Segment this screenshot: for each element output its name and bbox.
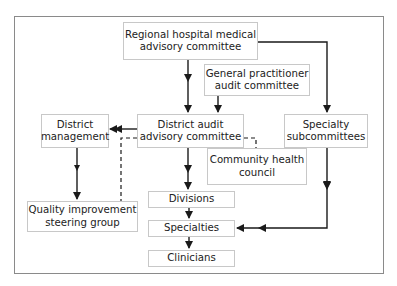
node-clinicians: Clinicians [148, 250, 235, 267]
node-gp-audit-committee: General practitioner audit committee [204, 64, 310, 96]
node-district-audit-committee: District audit advisory committee [137, 114, 244, 148]
node-label: Specialties [164, 222, 219, 235]
edge-dashed-quality [121, 138, 137, 201]
arrowhead-district-audit-mid [184, 74, 192, 82]
node-label: Clinicians [167, 252, 216, 265]
node-label: Community health council [208, 154, 306, 179]
arrowhead-management [114, 125, 122, 133]
node-specialty-subcommittees: Specialty subcommittees [284, 114, 368, 148]
arrowhead-quality-mid [74, 165, 80, 171]
arrowhead-divisions-mid [184, 165, 192, 173]
node-label: General practitioner audit committee [205, 68, 309, 93]
node-specialties: Specialties [148, 220, 235, 237]
node-label: Regional hospital medical advisory commi… [124, 29, 257, 54]
node-label: Specialty subcommittees [285, 119, 367, 144]
node-label: District audit advisory committee [138, 119, 243, 144]
arrowhead-specialty-vertical [323, 182, 331, 190]
node-divisions: Divisions [148, 191, 235, 208]
edge-dashed-community [244, 138, 256, 148]
node-label: Quality improvement steering group [28, 204, 137, 229]
node-regional-committee: Regional hospital medical advisory commi… [123, 22, 258, 60]
arrowhead-specialty-horizontal [258, 224, 266, 232]
node-label: Divisions [169, 193, 215, 206]
node-district-management: District management [41, 114, 109, 148]
node-label: District management [41, 119, 109, 144]
node-quality-improvement-group: Quality improvement steering group [27, 201, 138, 232]
node-community-health-council: Community health council [207, 148, 307, 185]
